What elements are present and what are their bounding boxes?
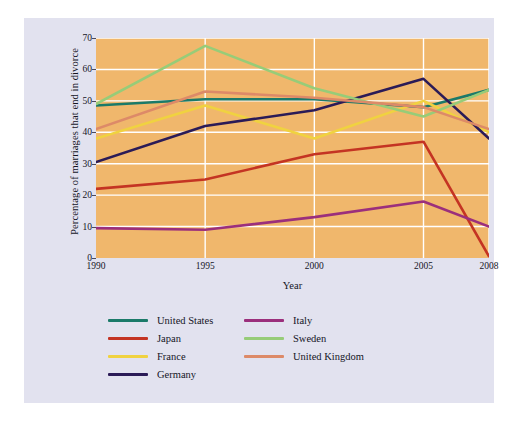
y-tick-label: 70	[66, 33, 92, 43]
legend-label: United States	[157, 315, 213, 326]
legend-swatch-icon	[244, 319, 284, 322]
y-tick-label: 20	[66, 190, 92, 200]
legend-swatch-icon	[108, 337, 148, 340]
legend-item-united-states[interactable]: United States	[108, 311, 213, 329]
y-axis-tick-labels: 010203040506070	[62, 38, 92, 258]
y-tick-mark	[92, 195, 96, 196]
x-tick-label: 2000	[305, 261, 324, 271]
legend-swatch-icon	[244, 355, 284, 358]
legend-swatch-icon	[108, 355, 148, 358]
y-tick-mark	[92, 227, 96, 228]
legend-item-sweden[interactable]: Sweden	[244, 329, 364, 347]
y-tick-label: 50	[66, 96, 92, 106]
legend-item-germany[interactable]: Germany	[108, 365, 213, 383]
series-line-italy	[96, 201, 489, 229]
legend-item-japan[interactable]: Japan	[108, 329, 213, 347]
legend-item-united-kingdom[interactable]: United Kingdom	[244, 347, 364, 365]
divorce-rate-line-chart: Percentage of marriages that end in divo…	[24, 18, 494, 403]
series-line-united-kingdom	[96, 91, 489, 129]
legend-swatch-icon	[108, 373, 148, 376]
x-axis-tick-labels: 19901995200020052008	[96, 261, 489, 277]
legend-label: Sweden	[293, 333, 326, 344]
y-tick-label: 40	[66, 127, 92, 137]
legend-label: Japan	[157, 333, 181, 344]
y-tick-mark	[92, 258, 96, 259]
x-tick-label: 1990	[87, 261, 106, 271]
y-tick-mark	[92, 132, 96, 133]
x-axis-title: Year	[96, 280, 489, 291]
legend-label: France	[157, 351, 186, 362]
y-tick-label: 10	[66, 222, 92, 232]
legend-column: ItalySwedenUnited Kingdom	[244, 311, 364, 365]
legend-label: United Kingdom	[293, 351, 364, 362]
series-line-japan	[96, 142, 489, 257]
x-tick-label: 1995	[196, 261, 215, 271]
legend-item-france[interactable]: France	[108, 347, 213, 365]
legend-swatch-icon	[108, 319, 148, 322]
plot-svg	[96, 38, 489, 258]
x-tick-label: 2005	[414, 261, 433, 271]
y-tick-mark	[92, 69, 96, 70]
legend-label: Germany	[157, 369, 196, 380]
legend-label: Italy	[293, 315, 312, 326]
x-tick-label: 2008	[480, 261, 499, 271]
y-tick-label: 30	[66, 159, 92, 169]
page-root: Percentage of marriages that end in divo…	[0, 0, 531, 425]
legend-swatch-icon	[244, 337, 284, 340]
y-tick-mark	[92, 164, 96, 165]
y-tick-label: 60	[66, 64, 92, 74]
y-tick-mark	[92, 101, 96, 102]
y-tick-mark	[92, 38, 96, 39]
legend-item-italy[interactable]: Italy	[244, 311, 364, 329]
plot-area	[96, 38, 489, 258]
legend-column: United StatesJapanFranceGermany	[108, 311, 213, 383]
